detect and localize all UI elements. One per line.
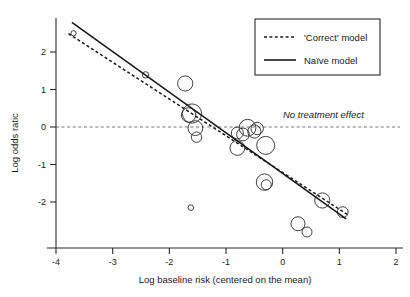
legend-label-naive-model: Naïve model	[304, 55, 357, 66]
y-tick-label: 1	[41, 85, 46, 95]
chart-figure: No treatment effect 210-1-2 Log odds rat…	[0, 0, 410, 297]
x-tick-label: -2	[165, 257, 173, 267]
y-tick-label: 0	[41, 122, 46, 132]
legend-box	[255, 19, 380, 75]
x-tick-label: 1	[337, 257, 342, 267]
chart-legend: 'Correct' model Naïve model	[255, 19, 380, 75]
chart-canvas: No treatment effect 210-1-2 Log odds rat…	[0, 0, 410, 297]
x-tick-label: 0	[280, 257, 285, 267]
x-tick-label: -1	[222, 257, 230, 267]
legend-label-correct-model: 'Correct' model	[304, 32, 367, 43]
x-tick-label: -3	[109, 257, 117, 267]
y-tick-label: -2	[38, 197, 46, 207]
y-tick-label: -1	[38, 160, 46, 170]
x-axis-title: Log baseline risk (centered on the mean)	[139, 274, 312, 285]
x-tick-label: -4	[52, 257, 60, 267]
x-tick-label: 2	[393, 257, 398, 267]
y-tick-label: 2	[41, 47, 46, 57]
no-treatment-effect-label: No treatment effect	[283, 109, 364, 120]
y-axis-title: Log odds ratic	[9, 113, 20, 173]
